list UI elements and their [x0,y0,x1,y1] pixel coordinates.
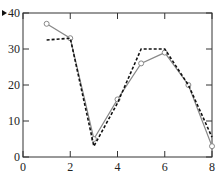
plot-frame [23,13,212,157]
x-tick-label: 2 [67,160,73,174]
x-tick-label: 8 [209,160,215,174]
circle-marker-icon [139,61,144,66]
x-axis-ticks: 02468 [20,13,215,174]
circle-marker-icon [210,144,215,149]
y-tick-label: 30 [8,42,20,56]
dashed-line [47,38,212,146]
y-tick-label: 20 [8,78,20,92]
data-series [44,21,214,148]
x-tick-label: 4 [115,160,121,174]
x-tick-label: 0 [20,160,26,174]
circle-marker-icon [44,21,49,26]
y-tick-label: 10 [8,114,20,128]
y-axis-ticks: 010203040 [8,6,212,164]
corner-arrow-icon [2,10,7,16]
line-chart: 010203040 02468 [0,0,219,177]
x-tick-label: 6 [162,160,168,174]
y-tick-label: 40 [8,6,20,20]
